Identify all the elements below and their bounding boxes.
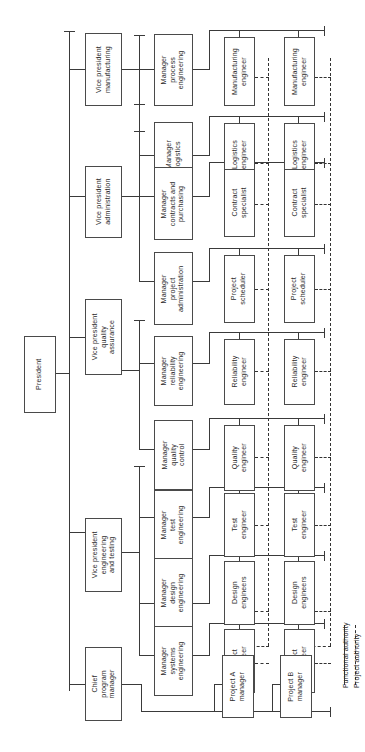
pa-stub-4 bbox=[255, 371, 269, 372]
box-project-b-staff-7[interactable]: Design engineers bbox=[284, 561, 315, 625]
project-a-label-2: Contract specialist bbox=[231, 188, 248, 219]
box-project-a-staff-4[interactable]: Reliability engineer bbox=[224, 339, 255, 405]
box-project-a-staff-7[interactable]: Design engineers bbox=[224, 561, 255, 625]
row8-rail-cap bbox=[324, 619, 325, 629]
pb-stub-0 bbox=[315, 77, 331, 78]
project-b-label-5: Quality engineer bbox=[291, 444, 308, 473]
box-project-b-staff-5[interactable]: Quality engineer bbox=[284, 425, 315, 491]
box-president[interactable]: President bbox=[24, 336, 56, 413]
pb-stub-6 bbox=[315, 525, 331, 526]
box-project-a-staff-3[interactable]: Project scheduler bbox=[224, 255, 255, 323]
vp3-mgr8-connector bbox=[139, 655, 154, 656]
row5-drop-a bbox=[239, 418, 240, 425]
pb-stub-1 bbox=[315, 163, 331, 164]
project-a-label-3: Project scheduler bbox=[231, 273, 248, 305]
vp2-to-bus bbox=[122, 370, 140, 371]
box-project-b-staff-0[interactable]: Manufacturing engineer bbox=[284, 37, 315, 106]
box-project-b-staff-3[interactable]: Project scheduler bbox=[284, 255, 315, 323]
row3-rail bbox=[209, 248, 325, 249]
row1-rail-cap bbox=[324, 112, 325, 122]
box-project-b-staff-2[interactable]: Contract specialist bbox=[284, 169, 315, 237]
row4-drop-a bbox=[239, 332, 240, 339]
vp2-mgr4-connector bbox=[139, 363, 154, 364]
manager-label-5: Manager quality control bbox=[161, 440, 187, 469]
row0-rail-cap bbox=[324, 26, 325, 36]
box-project-b-manager[interactable]: Project B manager bbox=[280, 655, 312, 718]
vp2-mgr5-connector bbox=[139, 449, 154, 450]
pa-stub-7 bbox=[255, 611, 269, 612]
row0-riser bbox=[209, 30, 210, 70]
manager-label-3: Manager project administration bbox=[161, 265, 187, 311]
box-manager-design-engineering[interactable]: Manager design engineering bbox=[154, 558, 193, 628]
box-manager-process-engineering[interactable]: Manager process engineering bbox=[154, 34, 193, 106]
vp-connector-1 bbox=[69, 196, 86, 197]
box-manager-reliability-engineering[interactable]: Manager reliability engineering bbox=[154, 336, 193, 406]
manager-label-1: Manager logistics bbox=[165, 140, 182, 169]
row7-mgr-out bbox=[193, 603, 210, 604]
vp0-mgr1-connector bbox=[139, 155, 154, 156]
pb-stub-5 bbox=[315, 457, 331, 458]
box-manager-quality-control[interactable]: Manager quality control bbox=[154, 420, 193, 490]
vp2-bus bbox=[139, 320, 140, 450]
vp3-bus-cap-top bbox=[134, 466, 145, 467]
pb-stub-7 bbox=[315, 611, 331, 612]
pa-stub-2 bbox=[255, 204, 269, 205]
row3-mgr-out bbox=[193, 281, 210, 282]
spine-top-cap bbox=[64, 31, 75, 32]
pb-stub-4 bbox=[315, 371, 331, 372]
box-project-a-manager[interactable]: Project A manager bbox=[222, 655, 254, 718]
vp-quality-assurance-label: Vice president quality assurance bbox=[91, 314, 117, 361]
vp-connector-0 bbox=[69, 69, 86, 70]
row7-riser bbox=[209, 555, 210, 604]
box-vp-administration[interactable]: Vice president administration bbox=[85, 166, 122, 238]
project-b-label-2: Contract specialist bbox=[291, 188, 308, 219]
manager-label-8: Manager systems engineering bbox=[161, 642, 187, 681]
row4-drop-b bbox=[298, 332, 299, 339]
box-project-b-staff-4[interactable]: Reliability engineer bbox=[284, 339, 315, 405]
executive-spine bbox=[69, 31, 70, 691]
box-vp-quality-assurance[interactable]: Vice president quality assurance bbox=[85, 299, 122, 375]
box-project-b-staff-6[interactable]: Test engineer bbox=[284, 493, 315, 557]
pa-stub-0 bbox=[255, 77, 269, 78]
box-manager-systems-engineering[interactable]: Manager systems engineering bbox=[154, 626, 193, 696]
pm-a-riser bbox=[214, 684, 215, 712]
pb-stub-3 bbox=[315, 289, 331, 290]
row3-riser bbox=[209, 248, 210, 282]
row3-drop-a bbox=[239, 248, 240, 255]
project-a-label-5: Quality engineer bbox=[231, 444, 248, 473]
vp2-bus-cap-top bbox=[134, 320, 145, 321]
project-b-label-1: Logistics engineer bbox=[291, 141, 308, 170]
manager-label-0: Manager process engineering bbox=[161, 51, 187, 90]
box-project-a-staff-6[interactable]: Test engineer bbox=[224, 493, 255, 557]
legend-project-label: Project authority bbox=[352, 634, 361, 688]
president-label: President bbox=[36, 359, 45, 390]
manager-label-4: Manager reliability engineering bbox=[161, 352, 187, 391]
box-project-a-staff-5[interactable]: Quality engineer bbox=[224, 425, 255, 491]
vp-administration-label: Vice president administration bbox=[95, 179, 112, 226]
project-b-label-6: Test engineer bbox=[291, 511, 308, 540]
row5-rail bbox=[209, 418, 325, 419]
pb-stub-2 bbox=[315, 204, 331, 205]
row4-rail-cap bbox=[324, 328, 325, 338]
row2-riser bbox=[209, 162, 210, 197]
box-manager-test-engineering[interactable]: Manager test engineering bbox=[154, 490, 193, 560]
box-chief-program-manager[interactable]: Chief program manager bbox=[85, 647, 122, 721]
box-vp-manufacturing[interactable]: Vice president manufacturing bbox=[85, 33, 122, 106]
vp3-bus bbox=[139, 466, 140, 656]
org-chart-canvas: President Chief program manager Vice pre… bbox=[0, 0, 365, 752]
row6-mgr-out bbox=[193, 517, 210, 518]
vp-manufacturing-label: Vice president manufacturing bbox=[95, 46, 112, 93]
box-vp-engineering-and-testing[interactable]: Vice president engineering and testing bbox=[85, 518, 122, 592]
box-project-a-staff-2[interactable]: Contract specialist bbox=[224, 169, 255, 237]
box-manager-project-administration[interactable]: Manager project administration bbox=[154, 252, 193, 325]
row3-drop-b bbox=[298, 248, 299, 255]
row5-rail-cap bbox=[324, 414, 325, 424]
vp3-to-bus bbox=[122, 552, 140, 553]
box-manager-contracts-and-purchasing[interactable]: Manager contracts and purchasing bbox=[154, 167, 193, 240]
manager-label-6: Manager test engineering bbox=[161, 506, 187, 545]
row8-riser bbox=[209, 623, 210, 656]
box-project-a-staff-0[interactable]: Manufacturing engineer bbox=[224, 37, 255, 106]
manager-label-2: Manager contracts and purchasing bbox=[161, 181, 187, 226]
chief-connector bbox=[69, 684, 86, 685]
row2-rail-cap bbox=[324, 158, 325, 168]
